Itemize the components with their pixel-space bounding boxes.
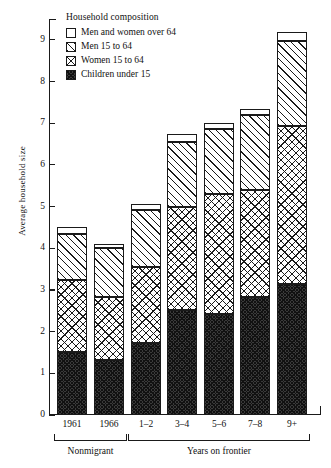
bar-segment-7–8-men xyxy=(240,115,270,190)
bar-segment-5–6-over64 xyxy=(204,123,234,128)
group-label-0: Nonmigrant xyxy=(54,446,127,456)
bar-segment-9+-children xyxy=(277,284,307,415)
bar-segment-1966-men xyxy=(94,248,124,297)
bar-segment-1966-over64 xyxy=(94,244,124,248)
y-tick-label-1: 1 xyxy=(30,368,45,378)
bar-9+ xyxy=(277,32,307,415)
white-square-swatch xyxy=(66,28,76,38)
y-tick-label-2: 2 xyxy=(30,327,45,337)
bar-segment-1–2-children xyxy=(131,343,161,415)
bar-segment-1961-men xyxy=(57,234,87,281)
legend-item-label-2: Women 15 to 64 xyxy=(81,55,144,66)
y-tick-label-5: 5 xyxy=(30,202,45,212)
bar-segment-1961-women xyxy=(57,280,87,351)
bar-segment-5–6-women xyxy=(204,194,234,314)
bar-3–4 xyxy=(167,134,197,415)
bar-7–8 xyxy=(240,109,270,415)
bar-segment-3–4-children xyxy=(167,310,197,415)
bar-segment-1966-children xyxy=(94,360,124,415)
group-label-1: Years on frontier xyxy=(128,446,310,456)
y-tick-label-7: 7 xyxy=(30,118,45,128)
y-tick-label-3: 3 xyxy=(30,285,45,295)
bar-segment-1966-women xyxy=(94,297,124,360)
y-tick-label-8: 8 xyxy=(30,77,45,87)
group-bracket-0 xyxy=(54,434,127,441)
bar-segment-9+-over64 xyxy=(277,32,307,41)
solid-dark-square-swatch xyxy=(66,70,76,80)
bar-segment-1961-children xyxy=(57,352,87,415)
y-tick-label-6: 6 xyxy=(30,160,45,170)
bar-segment-3–4-women xyxy=(167,207,197,310)
crosshatched-square-swatch xyxy=(66,56,76,66)
bar-1961 xyxy=(57,227,87,415)
legend-item-3: Children under 15 xyxy=(66,68,176,81)
chart-figure: Average household size 0123456789 196119… xyxy=(0,0,331,468)
bar-1–2 xyxy=(131,204,161,415)
legend: Household composition Men and women over… xyxy=(66,12,176,82)
y-tick-label-9: 9 xyxy=(30,35,45,45)
bar-segment-1–2-women xyxy=(131,267,161,343)
bar-segment-9+-women xyxy=(277,126,307,284)
bar-segment-1–2-men xyxy=(131,210,161,267)
y-tick-label-0: 0 xyxy=(30,410,45,420)
legend-item-label-1: Men 15 to 64 xyxy=(81,41,132,52)
bar-segment-7–8-children xyxy=(240,297,270,415)
legend-item-0: Men and women over 64 xyxy=(66,26,176,39)
bar-segment-5–6-men xyxy=(204,129,234,194)
bar-segment-3–4-over64 xyxy=(167,134,197,141)
y-tick-label-4: 4 xyxy=(30,243,45,253)
y-axis-label: Average household size xyxy=(17,106,27,276)
legend-item-2: Women 15 to 64 xyxy=(66,54,176,67)
bar-segment-7–8-over64 xyxy=(240,109,270,115)
legend-item-1: Men 15 to 64 xyxy=(66,40,176,53)
legend-title: Household composition xyxy=(66,12,176,23)
bar-segment-1961-over64 xyxy=(57,227,87,233)
bar-segment-5–6-children xyxy=(204,314,234,415)
x-tick-label-9+: 9+ xyxy=(267,419,317,429)
bar-5–6 xyxy=(204,123,234,415)
bar-segment-3–4-men xyxy=(167,142,197,207)
hatched-square-swatch xyxy=(66,42,76,52)
legend-item-label-0: Men and women over 64 xyxy=(81,27,176,38)
bar-segment-1–2-over64 xyxy=(131,204,161,210)
bar-segment-9+-men xyxy=(277,41,307,126)
bar-segment-7–8-women xyxy=(240,190,270,298)
legend-item-label-3: Children under 15 xyxy=(81,69,150,80)
group-bracket-1 xyxy=(128,434,310,441)
bar-1966 xyxy=(94,244,124,415)
legend-items: Men and women over 64Men 15 to 64Women 1… xyxy=(66,26,176,81)
